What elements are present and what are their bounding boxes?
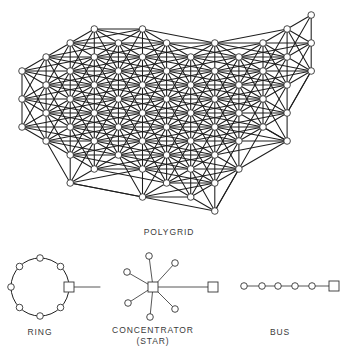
node-circle <box>43 138 50 145</box>
link-line <box>143 183 215 197</box>
node-circle <box>163 68 170 75</box>
node-circle <box>163 124 170 131</box>
node-circle <box>19 96 26 103</box>
node-circle <box>212 124 219 131</box>
node-circle <box>16 263 23 270</box>
node-circle <box>260 96 267 103</box>
bus-topology <box>241 281 339 291</box>
node-circle <box>139 110 146 117</box>
node-circle <box>115 96 122 103</box>
concentrator-square <box>329 281 339 291</box>
node-circle <box>57 263 64 270</box>
node-circle <box>187 54 194 61</box>
node-circle <box>115 152 122 159</box>
node-circle <box>125 300 132 307</box>
node-circle <box>37 313 44 320</box>
link-line <box>46 141 70 183</box>
node-circle <box>284 138 291 145</box>
node-circle <box>67 40 74 47</box>
node-circle <box>67 96 74 103</box>
node-circle <box>37 255 44 262</box>
node-circle <box>91 26 98 33</box>
node-circle <box>124 269 131 276</box>
node-circle <box>115 124 122 131</box>
node-circle <box>284 26 291 33</box>
node-circle <box>91 54 98 61</box>
node-circle <box>163 152 170 159</box>
node-circle <box>115 68 122 75</box>
bus-label: BUS <box>270 327 290 338</box>
node-circle <box>172 306 179 313</box>
node-circle <box>139 26 146 33</box>
node-circle <box>212 68 219 75</box>
node-circle <box>284 110 291 117</box>
node-circle <box>139 54 146 61</box>
node-circle <box>212 180 219 187</box>
node-circle <box>139 166 146 173</box>
concentrator-square <box>148 282 158 292</box>
star-topology <box>124 253 218 321</box>
node-circle <box>236 138 243 145</box>
node-circle <box>260 68 267 75</box>
link-line <box>215 169 239 211</box>
star-sublabel: (STAR) <box>112 336 194 347</box>
polygrid-label: POLYGRID <box>144 227 195 238</box>
node-circle <box>308 68 315 75</box>
node-circle <box>212 40 219 47</box>
node-circle <box>43 82 50 89</box>
ring-topology <box>8 255 100 320</box>
node-circle <box>260 40 267 47</box>
concentrator-square <box>64 282 74 292</box>
node-circle <box>163 96 170 103</box>
node-circle <box>91 110 98 117</box>
node-circle <box>308 40 315 47</box>
node-circle <box>187 82 194 89</box>
node-circle <box>139 138 146 145</box>
node-circle <box>284 54 291 61</box>
node-circle <box>163 180 170 187</box>
node-circle <box>241 283 248 290</box>
node-circle <box>275 283 282 290</box>
concentrator-label: CONCENTRATOR <box>112 325 194 336</box>
node-circle <box>212 96 219 103</box>
node-circle <box>236 110 243 117</box>
link-line <box>287 71 311 113</box>
ring-label: RING <box>28 327 53 338</box>
node-circle <box>187 110 194 117</box>
node-circle <box>43 110 50 117</box>
node-circle <box>309 283 316 290</box>
node-circle <box>67 68 74 75</box>
node-circle <box>212 208 219 215</box>
link-line <box>215 29 287 43</box>
concentrator-square <box>208 282 218 292</box>
node-circle <box>163 40 170 47</box>
node-circle <box>139 194 146 201</box>
node-circle <box>8 284 15 291</box>
node-circle <box>308 12 315 19</box>
node-circle <box>146 253 153 260</box>
node-circle <box>67 124 74 131</box>
node-circle <box>19 124 26 131</box>
node-circle <box>187 194 194 201</box>
node-circle <box>259 283 266 290</box>
node-circle <box>91 82 98 89</box>
node-circle <box>292 283 299 290</box>
node-circle <box>187 166 194 173</box>
node-circle <box>57 304 64 311</box>
node-circle <box>67 180 74 187</box>
node-circle <box>139 82 146 89</box>
node-circle <box>115 40 122 47</box>
node-circle <box>91 166 98 173</box>
node-circle <box>67 152 74 159</box>
node-circle <box>212 152 219 159</box>
node-circle <box>43 54 50 61</box>
network-topology-diagram <box>0 0 350 357</box>
node-circle <box>187 138 194 145</box>
link-line <box>70 183 142 197</box>
node-circle <box>236 54 243 61</box>
link-line <box>143 197 215 211</box>
node-circle <box>260 124 267 131</box>
node-circle <box>16 304 23 311</box>
node-circle <box>147 314 154 321</box>
star-label: CONCENTRATOR (STAR) <box>112 325 194 347</box>
